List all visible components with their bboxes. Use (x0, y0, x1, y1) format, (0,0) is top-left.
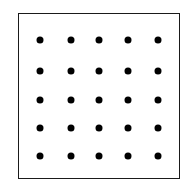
grid-dot (125, 153, 132, 160)
grid-dot (68, 97, 75, 104)
grid-dot (96, 97, 103, 104)
grid-dot (155, 153, 162, 160)
grid-dot (96, 125, 103, 132)
grid-dot (68, 37, 75, 44)
grid-dot (37, 125, 44, 132)
grid-dot (125, 125, 132, 132)
grid-dot (125, 97, 132, 104)
grid-dot (96, 37, 103, 44)
grid-dot (155, 125, 162, 132)
grid-dot (96, 68, 103, 75)
grid-dot (155, 97, 162, 104)
grid-dot (68, 153, 75, 160)
grid-dot (37, 68, 44, 75)
grid-dot (37, 153, 44, 160)
grid-dot (68, 68, 75, 75)
grid-dot (125, 68, 132, 75)
grid-dot (155, 68, 162, 75)
grid-dot (37, 97, 44, 104)
grid-dot (155, 37, 162, 44)
grid-dot (68, 125, 75, 132)
grid-dot (96, 153, 103, 160)
grid-dot (37, 37, 44, 44)
grid-dot (125, 37, 132, 44)
